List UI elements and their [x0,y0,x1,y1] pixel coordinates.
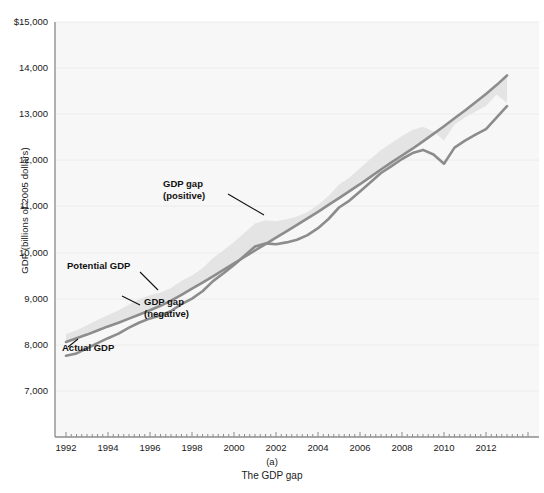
y-tick-label: 13,000 [2,108,48,119]
annotation-gap-negative: GDP gap (negative) [144,296,189,319]
x-tick-label: 2008 [380,442,424,453]
x-tick-label: 2012 [464,442,508,453]
y-tick-label: 11,000 [2,200,48,211]
plot-background [55,22,539,437]
x-tick-label: 2010 [422,442,466,453]
y-tick-label: 14,000 [2,62,48,73]
x-tick-label: 2002 [254,442,298,453]
annotation-gap-positive: GDP gap (positive) [163,178,205,201]
x-tick-label: 1998 [170,442,214,453]
annotation-gap-positive-line2: (positive) [163,190,205,202]
x-tick-label: 1994 [86,442,130,453]
y-tick-label: 8,000 [2,339,48,350]
x-tick-label: 2000 [212,442,256,453]
gdp-gap-figure: GDP (billions of 2005 dollars) $15,000 1… [0,0,544,493]
gdp-gap-chart-svg [0,0,544,493]
annotation-gap-positive-line1: GDP gap [163,178,205,190]
annotation-gap-negative-line1: GDP gap [144,296,189,308]
figure-caption-letter: (a) [0,456,544,467]
annotation-actual-gdp: Actual GDP [62,342,114,354]
y-tick-label: 10,000 [2,247,48,258]
y-tick-label: 12,000 [2,154,48,165]
y-tick-label: $15,000 [2,16,48,27]
x-tick-label: 2004 [296,442,340,453]
annotation-gap-negative-line2: (negative) [144,308,189,320]
annotation-potential-gdp: Potential GDP [67,260,130,272]
x-tick-label: 1992 [44,442,88,453]
x-tick-label: 1996 [128,442,172,453]
y-tick-label: 9,000 [2,293,48,304]
y-axis-tick-labels: $15,000 14,000 13,000 12,000 11,000 10,0… [0,0,48,493]
x-tick-label: 2006 [338,442,382,453]
figure-caption-text: The GDP gap [0,470,544,481]
y-tick-label: 7,000 [2,385,48,396]
